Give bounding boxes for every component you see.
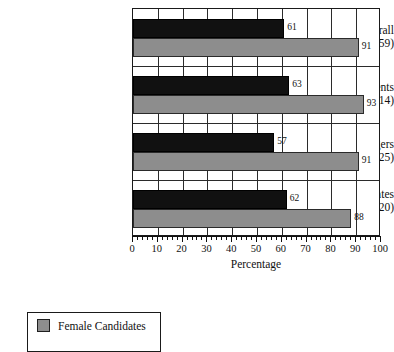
x-tick-label: 80 <box>316 243 344 254</box>
x-tick-minor <box>251 236 252 240</box>
bar-female <box>133 95 364 114</box>
bar-value-label: 57 <box>277 137 287 147</box>
x-tick-major <box>330 236 331 242</box>
x-tick-minor <box>241 236 242 240</box>
x-tick-label: 0 <box>118 243 146 254</box>
x-tick-minor <box>142 236 143 240</box>
legend-label: Female Candidates <box>58 320 146 332</box>
x-tick-major <box>306 236 307 242</box>
x-tick-major <box>355 236 356 242</box>
x-tick-minor <box>152 236 153 240</box>
x-tick-label: 60 <box>267 243 295 254</box>
x-tick-minor <box>360 236 361 240</box>
plot-area: 6191639357916288 <box>132 8 380 236</box>
x-tick-minor <box>196 236 197 240</box>
bar-value-label: 91 <box>362 156 372 166</box>
x-tick-minor <box>246 236 247 240</box>
x-tick-minor <box>162 236 163 240</box>
x-tick-minor <box>172 236 173 240</box>
x-tick-minor <box>261 236 262 240</box>
x-tick-minor <box>291 236 292 240</box>
x-tick-minor <box>311 236 312 240</box>
bar-value-label: 93 <box>367 99 377 109</box>
x-tick-minor <box>266 236 267 240</box>
gridline-horizontal <box>133 66 379 67</box>
x-tick-minor <box>201 236 202 240</box>
x-tick-minor <box>296 236 297 240</box>
x-axis-title: Percentage <box>132 258 380 270</box>
legend-item-female-candidates: Female Candidates <box>37 319 146 332</box>
x-tick-label: 90 <box>341 243 369 254</box>
x-tick-major <box>157 236 158 242</box>
x-tick-minor <box>365 236 366 240</box>
x-tick-minor <box>340 236 341 240</box>
x-tick-major <box>206 236 207 242</box>
bar-male <box>133 190 287 209</box>
x-tick-minor <box>236 236 237 240</box>
x-tick-label: 70 <box>292 243 320 254</box>
x-tick-minor <box>147 236 148 240</box>
x-tick-minor <box>345 236 346 240</box>
bar-value-label: 63 <box>292 80 302 90</box>
x-tick-minor <box>226 236 227 240</box>
x-tick-minor <box>167 236 168 240</box>
x-tick-major <box>182 236 183 242</box>
gridline-horizontal <box>133 180 379 181</box>
x-tick-minor <box>316 236 317 240</box>
bar-female <box>133 38 359 57</box>
legend: Female Candidates <box>27 312 161 352</box>
x-tick-major <box>281 236 282 242</box>
bar-value-label: 88 <box>354 213 364 223</box>
x-tick-minor <box>276 236 277 240</box>
x-tick-label: 40 <box>217 243 245 254</box>
x-tick-minor <box>375 236 376 240</box>
x-tick-minor <box>211 236 212 240</box>
x-tick-label: 20 <box>168 243 196 254</box>
bar-value-label: 91 <box>362 42 372 52</box>
x-tick-minor <box>350 236 351 240</box>
x-tick-minor <box>177 236 178 240</box>
x-tick-minor <box>325 236 326 240</box>
bar-value-label: 61 <box>287 23 297 33</box>
x-tick-minor <box>221 236 222 240</box>
x-tick-minor <box>137 236 138 240</box>
bar-female <box>133 209 351 228</box>
bar-value-label: 62 <box>290 194 300 204</box>
bar-male <box>133 19 284 38</box>
x-tick-minor <box>192 236 193 240</box>
x-tick-minor <box>370 236 371 240</box>
x-tick-minor <box>320 236 321 240</box>
x-tick-minor <box>286 236 287 240</box>
x-tick-minor <box>301 236 302 240</box>
x-tick-minor <box>271 236 272 240</box>
x-tick-minor <box>335 236 336 240</box>
x-tick-major <box>132 236 133 242</box>
bar-male <box>133 133 274 152</box>
x-tick-major <box>256 236 257 242</box>
bar-male <box>133 76 289 95</box>
x-tick-label: 10 <box>143 243 171 254</box>
gridline-horizontal <box>133 123 379 124</box>
x-tick-label: 30 <box>192 243 220 254</box>
x-tick-label: 100 <box>366 243 394 254</box>
x-tick-minor <box>187 236 188 240</box>
x-tick-major <box>380 236 381 242</box>
bar-female <box>133 152 359 171</box>
x-tick-minor <box>216 236 217 240</box>
x-tick-label: 50 <box>242 243 270 254</box>
x-tick-major <box>231 236 232 242</box>
legend-swatch-female-icon <box>37 319 50 332</box>
